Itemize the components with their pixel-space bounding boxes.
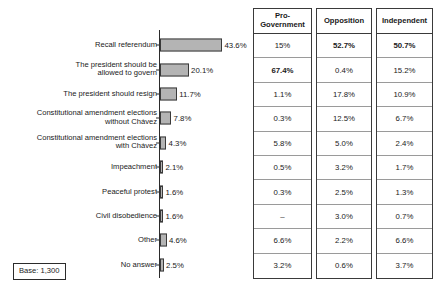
chart-category-label: Peaceful protest: [7, 187, 157, 196]
table-cell: 2.2%: [317, 229, 371, 253]
table-cell: 6.6%: [254, 229, 311, 253]
table-cell: 15.2%: [377, 58, 432, 82]
chart-bar-value: 7.8%: [174, 114, 192, 123]
chart-row: Recall referendum43.6%: [0, 33, 253, 57]
bar-chart: Recall referendum43.6%The president shou…: [0, 0, 253, 296]
table-cell: 5.0%: [317, 132, 371, 156]
table-header-pro-government: Pro- Government: [254, 9, 311, 34]
table-header-opposition: Opposition: [317, 9, 371, 34]
chart-bar: [160, 136, 166, 149]
table-cell: 2.4%: [377, 132, 432, 156]
table-cell: 5.8%: [254, 132, 311, 156]
chart-bar: [160, 161, 163, 174]
table-cell: 0.4%: [317, 58, 371, 82]
table-cell: 17.8%: [317, 83, 371, 107]
chart-row: Peaceful protest1.6%: [0, 179, 253, 203]
chart-bar-value: 2.5%: [166, 260, 184, 269]
chart-category-label: Recall referendum: [7, 41, 157, 50]
chart-bar-value: 4.3%: [169, 138, 187, 147]
axis-tick: [156, 93, 159, 94]
table-cell: 0.6%: [317, 254, 371, 278]
axis-tick: [156, 264, 159, 265]
table-header-independent: Independent: [377, 9, 432, 34]
axis-tick: [156, 167, 159, 168]
chart-category-label: The president should be allowed to gover…: [7, 61, 157, 78]
axis-tick: [156, 45, 159, 46]
axis-tick: [156, 215, 159, 216]
axis-tick: [156, 118, 159, 119]
chart-row: Constitutional amendment elections with …: [0, 131, 253, 155]
table-cell: 3.0%: [317, 205, 371, 229]
table-cell: 6.7%: [377, 107, 432, 131]
chart-bar: [160, 185, 163, 198]
table-cell: 52.7%: [317, 34, 371, 58]
chart-category-label: Impeachment: [7, 163, 157, 172]
table-cell: 1.3%: [377, 180, 432, 204]
chart-bar: [160, 87, 177, 100]
table-cell: 50.7%: [377, 34, 432, 58]
table-cell: 0.3%: [254, 107, 311, 131]
axis-tick: [156, 142, 159, 143]
table-cell: 6.6%: [377, 229, 432, 253]
breakdown-table: Pro- Government15%67.4%1.1%0.3%5.8%0.5%0…: [253, 8, 433, 278]
axis-tick: [156, 240, 159, 241]
chart-category-label: The president should resign: [7, 90, 157, 99]
chart-bar: [160, 209, 163, 222]
table-column-pro-government: Pro- Government15%67.4%1.1%0.3%5.8%0.5%0…: [253, 8, 312, 279]
table-cell: 0.5%: [254, 156, 311, 180]
chart-bar-value: 20.1%: [191, 65, 213, 74]
table-cell: 1.1%: [254, 83, 311, 107]
chart-category-label: Other: [7, 236, 157, 245]
table-cell: 12.5%: [317, 107, 371, 131]
axis-tick: [156, 191, 159, 192]
chart-bar: [160, 234, 167, 247]
base-note-box: Base: 1,300: [13, 263, 66, 280]
chart-bar: [160, 63, 189, 76]
chart-bar-value: 43.6%: [225, 41, 247, 50]
chart-category-label: Constitutional amendment elections witho…: [7, 110, 157, 127]
chart-bar-value: 1.6%: [166, 187, 184, 196]
table-cell: 3.2%: [317, 156, 371, 180]
table-cell: 0.3%: [254, 180, 311, 204]
table-cell: –: [254, 205, 311, 229]
chart-bar-value: 4.6%: [169, 236, 187, 245]
table-cell: 1.7%: [377, 156, 432, 180]
chart-bar-value: 2.1%: [166, 163, 184, 172]
chart-bar: [160, 258, 164, 271]
table-column-independent: Independent50.7%15.2%10.9%6.7%2.4%1.7%1.…: [376, 8, 433, 279]
chart-row: Impeachment2.1%: [0, 155, 253, 179]
table-cell: 3.7%: [377, 254, 432, 278]
chart-bar-value: 11.7%: [179, 89, 201, 98]
chart-row: The president should be allowed to gover…: [0, 57, 253, 81]
table-cell: 15%: [254, 34, 311, 58]
chart-row: The president should resign11.7%: [0, 82, 253, 106]
table-column-opposition: Opposition52.7%0.4%17.8%12.5%5.0%3.2%2.5…: [316, 8, 372, 279]
axis-tick: [156, 69, 159, 70]
base-note-label: Base: 1,300: [19, 266, 60, 275]
chart-row: Constitutional amendment elections witho…: [0, 106, 253, 130]
chart-bar-value: 1.6%: [166, 211, 184, 220]
chart-bar: [160, 39, 222, 52]
table-cell: 10.9%: [377, 83, 432, 107]
chart-bar: [160, 112, 171, 125]
table-cell: 0.7%: [377, 205, 432, 229]
table-cell: 3.2%: [254, 254, 311, 278]
chart-category-label: Civil disobedience: [7, 212, 157, 221]
table-cell: 2.5%: [317, 180, 371, 204]
table-cell: 67.4%: [254, 58, 311, 82]
chart-row: Civil disobedience1.6%: [0, 204, 253, 228]
chart-row: Other4.6%: [0, 228, 253, 252]
chart-category-label: Constitutional amendment elections with …: [7, 134, 157, 151]
